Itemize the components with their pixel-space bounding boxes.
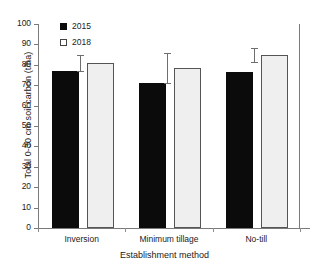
bar-minimum-tillage-2018 — [174, 68, 201, 228]
bar-no-till-2018 — [261, 55, 288, 228]
error-bar-cap-lower — [164, 83, 171, 84]
x-category-label-inversion: Inversion — [38, 234, 125, 244]
x-tick-mark — [300, 228, 301, 232]
y-tick-label: 10 — [22, 202, 31, 212]
legend-swatch-2015 — [60, 23, 67, 30]
error-bar-cap-lower — [251, 62, 258, 63]
y-tick-label: 40 — [22, 140, 31, 150]
y-tick-label: 70 — [22, 79, 31, 89]
y-axis-title: Total 0-30 cm soil carbon (t/ha) — [23, 25, 37, 205]
y-tick-label: 60 — [22, 100, 31, 110]
legend-item-2018: 2018 — [60, 36, 91, 49]
y-tick-label: 90 — [22, 38, 31, 48]
x-tick-mark — [125, 228, 126, 232]
y-tick-label: 80 — [22, 59, 31, 69]
y-tick-label: 100 — [17, 18, 31, 28]
y-tick-label: 50 — [22, 120, 31, 130]
y-tick-label: 0 — [26, 222, 31, 232]
legend-swatch-2018 — [60, 39, 67, 46]
plot-area — [38, 24, 300, 228]
legend-item-2015: 2015 — [60, 20, 91, 33]
bar-inversion-2018 — [87, 63, 114, 228]
bar-no-till-2015 — [226, 72, 253, 228]
x-tick-mark — [213, 228, 214, 232]
legend-label-2015: 2015 — [72, 22, 91, 31]
error-bar-cap-upper — [77, 55, 84, 56]
x-category-label-no-till: No-till — [213, 234, 300, 244]
error-bar-cap-upper — [251, 48, 258, 49]
error-bar-minimum-tillage-2018 — [167, 53, 168, 83]
error-bar-no-till-2018 — [254, 48, 255, 61]
x-category-label-minimum-tillage: Minimum tillage — [125, 234, 212, 244]
error-bar-inversion-2018 — [80, 55, 81, 71]
x-axis-line — [38, 228, 310, 229]
error-bar-cap-lower — [77, 71, 84, 72]
x-axis-title: Establishment method — [0, 250, 329, 260]
y-tick-label: 30 — [22, 161, 31, 171]
bar-minimum-tillage-2015 — [139, 83, 166, 228]
legend-label-2018: 2018 — [72, 38, 91, 47]
error-bar-cap-upper — [164, 53, 171, 54]
chart-legend: 2015 2018 — [60, 20, 91, 52]
bar-inversion-2015 — [52, 71, 79, 228]
y-tick-label: 20 — [22, 181, 31, 191]
bar-chart-figure: Total 0-30 cm soil carbon (t/ha) Establi… — [0, 0, 329, 272]
x-tick-mark — [38, 228, 39, 232]
